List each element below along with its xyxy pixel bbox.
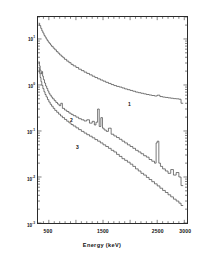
spectrum-plot <box>38 17 187 223</box>
x-tick-label-500: 500 <box>43 228 52 234</box>
y-tick-exponent-3: -2 <box>32 175 35 179</box>
curves-group <box>39 23 184 205</box>
x-tick-label-1500: 1500 <box>97 228 109 234</box>
y-tick-exponent-4: -3 <box>32 221 35 225</box>
y-tick-exponent-2: -1 <box>32 128 35 132</box>
spectrum-curve-2 <box>39 62 184 186</box>
y-tick-label-1: 100 <box>13 82 35 89</box>
curve-label-1: 1 <box>128 101 131 107</box>
y-tick-label-3: 10-2 <box>13 175 35 182</box>
axis-ticks-group <box>38 17 187 223</box>
figure-container: counts keV⁻¹ 1000 min⁻¹ 10110010-110-210… <box>0 0 204 262</box>
curve-label-2: 2 <box>70 117 73 123</box>
y-tick-label-0: 101 <box>13 35 35 42</box>
plot-area <box>37 16 188 224</box>
curve-label-3: 3 <box>76 144 79 150</box>
spectrum-curve-3 <box>39 67 184 205</box>
x-tick-label-2500: 2500 <box>152 228 164 234</box>
x-axis-title: Energy (keV) <box>0 242 204 248</box>
y-tick-exponent-1: 0 <box>33 82 35 86</box>
y-tick-label-4: 10-3 <box>13 221 35 228</box>
y-tick-label-2: 10-1 <box>13 128 35 135</box>
x-tick-label-3000: 3000 <box>179 228 191 234</box>
y-tick-exponent-0: 1 <box>33 35 35 39</box>
spectrum-curve-1 <box>39 23 184 103</box>
